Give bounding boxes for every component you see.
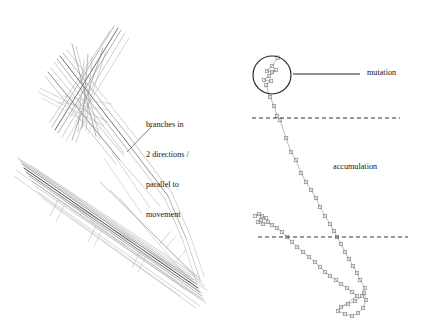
upper-fiber-bundle (38, 26, 138, 164)
branch-annotation-line-3: parallel to (146, 180, 189, 190)
trajectory-path-lower-branch (255, 214, 357, 307)
branch-annotation-line-4: movement (146, 210, 189, 220)
mutation-label: mutation (367, 68, 396, 78)
branch-annotation-line-1: branches in (146, 120, 189, 130)
figure-root: branches in 2 directions / parallel to m… (0, 0, 422, 333)
accumulation-label: accumulation (333, 162, 377, 172)
right-trajectory-diagram (252, 56, 408, 318)
branch-annotation-text: branches in 2 directions / parallel to m… (146, 100, 189, 240)
branch-annotation-line-2: 2 directions / (146, 150, 189, 160)
trajectory-path-main (264, 58, 366, 316)
mutation-highlight-circle (253, 56, 291, 94)
marker-group-lower-branch (253, 212, 358, 297)
marker-group-cluster (262, 56, 279, 87)
